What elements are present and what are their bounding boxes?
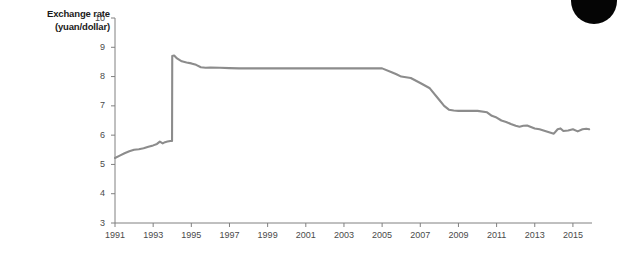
x-tick-label: 1999 (248, 231, 288, 240)
y-tick-label: 5 (81, 160, 105, 169)
x-tick-label: 2009 (438, 231, 478, 240)
x-tick-label: 2003 (324, 231, 364, 240)
x-axis-ticks (115, 223, 573, 227)
x-tick-label: 2001 (286, 231, 326, 240)
scan-bleed-artifact-top (150, 4, 152, 13)
y-tick-label: 4 (81, 189, 105, 198)
y-tick-label: 10 (81, 14, 105, 23)
x-tick-label: 2007 (400, 231, 440, 240)
y-tick-label: 6 (81, 131, 105, 140)
x-tick-label: 2011 (477, 231, 517, 240)
scan-bleed-artifact-middle (200, 170, 202, 179)
x-tick-label: 1997 (209, 231, 249, 240)
y-tick-label: 9 (81, 43, 105, 52)
y-tick-label: 3 (81, 219, 105, 228)
exchange-rate-line (115, 55, 589, 158)
x-tick-label: 2005 (362, 231, 402, 240)
x-tick-label: 1991 (95, 231, 135, 240)
y-axis-ticks (111, 18, 115, 223)
x-tick-label: 2013 (515, 231, 555, 240)
axis-lines (115, 18, 592, 223)
x-tick-label: 2015 (553, 231, 593, 240)
y-tick-label: 7 (81, 101, 105, 110)
x-tick-label: 1993 (133, 231, 173, 240)
x-tick-label: 1995 (171, 231, 211, 240)
y-tick-label: 8 (81, 72, 105, 81)
